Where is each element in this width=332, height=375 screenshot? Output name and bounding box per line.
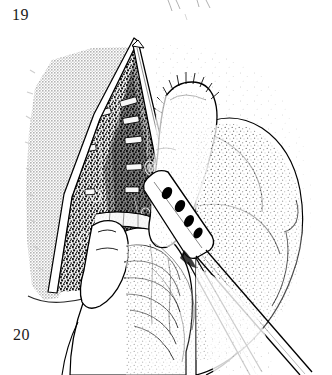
- partial-figure-above: [168, 0, 210, 20]
- surgical-illustration: [0, 0, 332, 375]
- figure-label-20: 20: [13, 327, 30, 343]
- figure-label-19: 19: [12, 7, 29, 23]
- figure-page: 19 20: [0, 0, 332, 375]
